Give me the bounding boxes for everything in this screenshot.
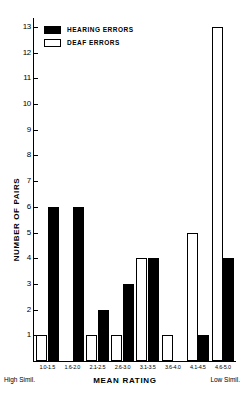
- bar-hearing-errors-3.1-3.5: [148, 258, 159, 361]
- x-axis-line: [33, 361, 236, 362]
- bar-deaf-errors-1.0-1.5: [36, 335, 47, 361]
- y-axis-tick: [34, 181, 38, 182]
- bar-hearing-errors-4.6-5.0: [223, 258, 234, 361]
- chart-legend: HEARING ERRORS DEAF ERRORS: [44, 24, 134, 50]
- bar-deaf-errors-2.6-3.0: [111, 335, 122, 361]
- y-axis-tick: [34, 27, 38, 28]
- bar-hearing-errors-1.0-1.5: [48, 207, 59, 361]
- y-axis-tick-label: 2: [15, 306, 31, 314]
- bar-hearing-errors-4.1-4.5: [198, 335, 209, 361]
- bar-deaf-errors-4.6-5.0: [212, 27, 223, 361]
- y-axis-tick-label: 11: [15, 74, 31, 82]
- x-axis-anchor-low-similarity: Low Simil.: [210, 376, 240, 383]
- bar-deaf-errors-2.1-2.5: [86, 335, 97, 361]
- x-axis-tick-label: 4.6-5.0: [207, 364, 240, 370]
- y-axis-tick: [34, 284, 38, 285]
- y-axis-tick-label: 4: [15, 254, 31, 262]
- y-axis-tick: [34, 310, 38, 311]
- bar-hearing-errors-1.6-2.0: [73, 207, 84, 361]
- y-axis-tick: [34, 155, 38, 156]
- legend-label-hearing-errors: HEARING ERRORS: [67, 26, 134, 33]
- y-axis-tick: [34, 53, 38, 54]
- y-axis-tick-label: 7: [15, 177, 31, 185]
- bar-deaf-errors-4.1-4.5: [187, 233, 198, 361]
- y-axis-tick-label: 5: [15, 229, 31, 237]
- bar-hearing-errors-2.1-2.5: [98, 310, 109, 361]
- y-axis-tick-label: 10: [15, 100, 31, 108]
- y-axis-tick: [34, 78, 38, 79]
- bar-deaf-errors-3.1-3.5: [136, 258, 147, 361]
- y-axis-tick: [34, 233, 38, 234]
- legend-item-deaf-errors: DEAF ERRORS: [44, 37, 134, 48]
- x-axis-anchor-high-similarity: High Simil.: [4, 376, 35, 383]
- y-axis-tick-label: 1: [15, 331, 31, 339]
- legend-swatch-hearing-errors: [44, 26, 61, 34]
- legend-label-deaf-errors: DEAF ERRORS: [67, 39, 120, 46]
- y-axis-tick: [34, 207, 38, 208]
- bar-chart-figure: HEARING ERRORS DEAF ERRORS NUMBER OF PAI…: [0, 0, 250, 395]
- bar-deaf-errors-3.6-4.0: [162, 335, 173, 361]
- y-axis-tick: [34, 130, 38, 131]
- y-axis-tick-label: 9: [15, 126, 31, 134]
- y-axis-tick-label: 13: [15, 23, 31, 31]
- legend-swatch-deaf-errors: [44, 39, 61, 47]
- y-axis-tick-label: 8: [15, 151, 31, 159]
- y-axis-tick: [34, 258, 38, 259]
- y-axis-tick-label: 3: [15, 280, 31, 288]
- bar-hearing-errors-2.6-3.0: [123, 284, 134, 361]
- y-axis-tick-label: 12: [15, 49, 31, 57]
- y-axis-tick: [34, 104, 38, 105]
- legend-item-hearing-errors: HEARING ERRORS: [44, 24, 134, 35]
- y-axis-tick-label: 6: [15, 203, 31, 211]
